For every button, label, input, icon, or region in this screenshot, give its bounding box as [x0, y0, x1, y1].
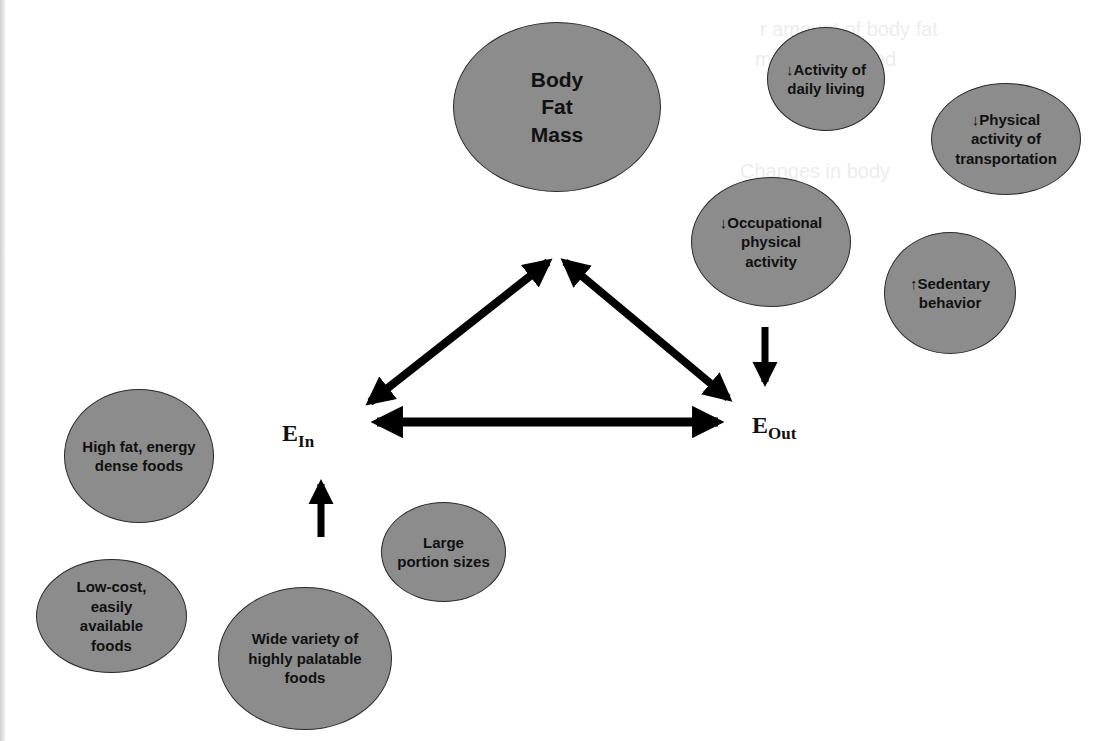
arrow-ein-bodyfat [370, 262, 548, 402]
energy-out-base: E [752, 412, 768, 438]
node-wide-variety-foods: Wide variety of highly palatable foods [218, 587, 392, 730]
node-label: ↓Physical activity of transportation [955, 110, 1057, 169]
node-sedentary-behavior: ↑Sedentary behavior [884, 232, 1016, 354]
node-label: High fat, energy dense foods [82, 437, 195, 476]
energy-out-sub: Out [768, 424, 796, 443]
energy-in-sub: In [298, 432, 314, 451]
label-energy-out: EOut [752, 412, 796, 444]
node-activity-daily-living: ↓Activity of daily living [767, 27, 885, 131]
label-energy-in: EIn [282, 420, 314, 452]
node-high-fat-foods: High fat, energy dense foods [64, 389, 214, 523]
node-label: Wide variety of highly palatable foods [248, 629, 361, 688]
node-occupational-physical-activity: ↓Occupational physical activity [691, 177, 851, 307]
node-body-fat-mass: Body Fat Mass [453, 22, 661, 192]
node-label: Large portion sizes [397, 533, 490, 572]
node-large-portion-sizes: Large portion sizes [381, 502, 506, 602]
energy-in-base: E [282, 420, 298, 446]
node-label: Low-cost, easily available foods [77, 577, 147, 655]
node-low-cost-foods: Low-cost, easily available foods [36, 559, 187, 673]
node-label: ↓Activity of daily living [786, 60, 866, 99]
node-label: Body Fat Mass [531, 66, 584, 148]
node-physical-activity-transportation: ↓Physical activity of transportation [931, 83, 1081, 195]
arrow-bodyfat-eout [565, 262, 728, 398]
node-label: ↑Sedentary behavior [910, 274, 990, 313]
node-label: ↓Occupational physical activity [720, 213, 823, 272]
